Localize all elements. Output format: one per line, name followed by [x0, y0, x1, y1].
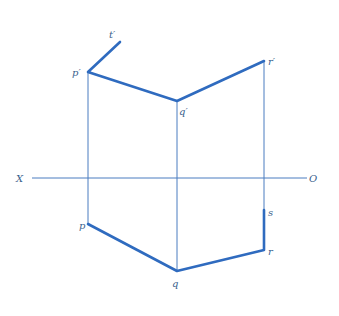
label-q: q: [172, 278, 178, 289]
label-s: s: [268, 207, 273, 218]
projection-diagram: X O t′ p′ q′ r′ p q r s: [0, 0, 339, 316]
label-p: p: [79, 220, 86, 231]
label-t-prime: t′: [109, 29, 116, 40]
plan-line-pqrs: [88, 210, 264, 271]
label-o: O: [309, 173, 317, 184]
label-r: r: [268, 246, 274, 257]
label-p-prime: p′: [72, 67, 81, 78]
label-x: X: [15, 173, 24, 184]
elevation-line-tpqr: [88, 42, 264, 101]
label-q-prime: q′: [179, 106, 188, 117]
label-r-prime: r′: [268, 56, 276, 67]
